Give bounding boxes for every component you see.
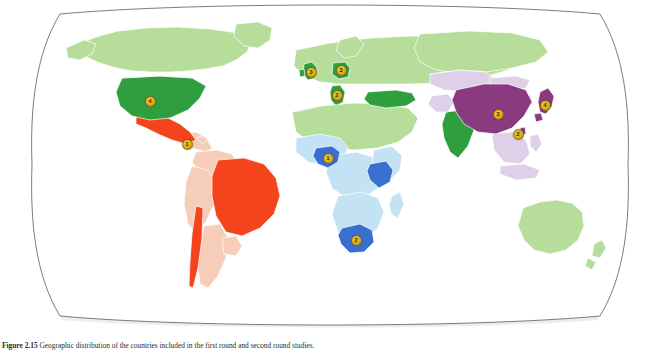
marker-china[interactable]: 3 xyxy=(493,109,504,120)
figure-caption-label: Figure 2.15 xyxy=(2,341,38,350)
figure-root: 1 4 3 3 2 1 2 3 2 4 Figure 2.15 Geograph… xyxy=(0,0,657,357)
marker-united-states[interactable]: 4 xyxy=(145,96,156,107)
marker-japan[interactable]: 4 xyxy=(540,100,551,111)
marker-united-kingdom[interactable]: 3 xyxy=(306,67,317,78)
figure-caption-text: Geographic distribution of the countries… xyxy=(39,341,314,350)
marker-italy[interactable]: 2 xyxy=(332,90,343,101)
figure-caption: Figure 2.15 Geographic distribution of t… xyxy=(0,341,657,357)
region-japan-south xyxy=(534,113,543,122)
world-map-svg xyxy=(0,0,657,330)
marker-nigeria[interactable]: 1 xyxy=(323,153,334,164)
marker-south-africa[interactable]: 2 xyxy=(351,235,362,246)
world-map: 1 4 3 3 2 1 2 3 2 4 xyxy=(0,0,657,330)
marker-germany[interactable]: 3 xyxy=(336,65,347,76)
marker-hong-kong[interactable]: 2 xyxy=(513,129,524,140)
marker-caribbean[interactable]: 1 xyxy=(182,139,193,150)
region-ireland xyxy=(299,69,305,77)
